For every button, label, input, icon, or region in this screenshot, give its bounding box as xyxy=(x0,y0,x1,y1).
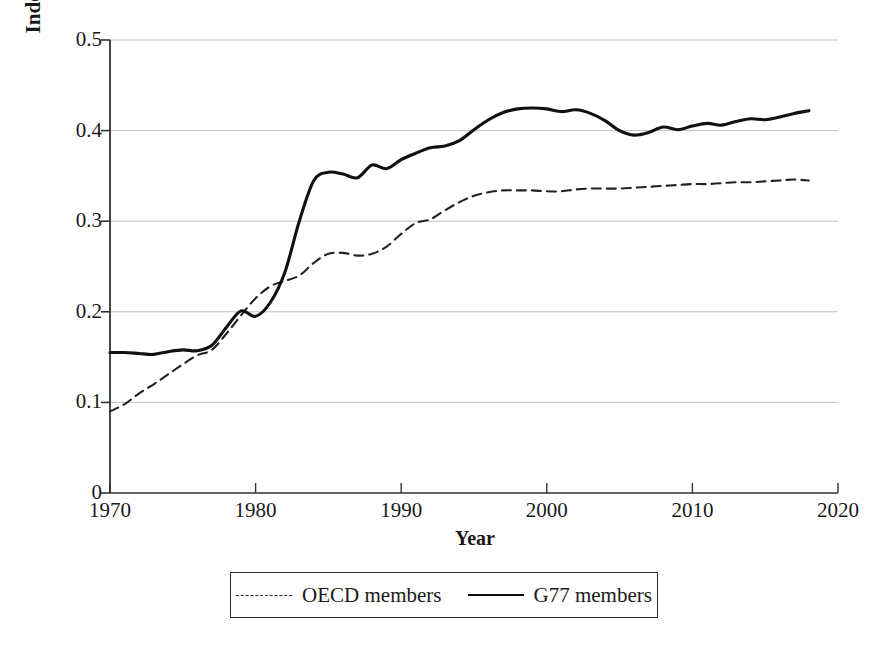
chart-legend: OECD members G77 members xyxy=(230,572,658,618)
legend-swatch-dashed-icon xyxy=(236,595,292,596)
y-tick-label: 0.4 xyxy=(46,120,102,141)
x-tick-label: 1990 xyxy=(356,498,446,523)
x-tick-label: 2010 xyxy=(647,498,737,523)
y-tick-label: 0.3 xyxy=(46,210,102,231)
x-axis-title: Year xyxy=(110,527,840,550)
legend-swatch-solid-icon xyxy=(468,594,524,596)
x-tick-label: 2020 xyxy=(793,498,883,523)
axis-ticks xyxy=(101,40,838,493)
data-series-group xyxy=(110,108,809,412)
y-axis-title: Index of overall source taxing rights xyxy=(18,0,48,100)
y-tick-label: 0.2 xyxy=(46,301,102,322)
x-tick-label: 2000 xyxy=(502,498,592,523)
y-tick-label: 0.5 xyxy=(46,29,102,50)
chart-figure: Index of overall source taxing rights 00… xyxy=(0,0,888,645)
x-tick-label: 1980 xyxy=(211,498,301,523)
axis-lines xyxy=(110,40,838,493)
y-tick-label: 0.1 xyxy=(46,391,102,412)
legend-label-oecd: OECD members xyxy=(302,583,441,608)
legend-item-g77: G77 members xyxy=(468,583,652,608)
x-tick-label: 1970 xyxy=(65,498,155,523)
legend-label-g77: G77 members xyxy=(534,583,652,608)
gridlines xyxy=(110,40,838,402)
legend-item-oecd: OECD members xyxy=(236,583,441,608)
series-line-g77-members xyxy=(110,108,809,354)
series-line-oecd-members xyxy=(110,180,809,412)
